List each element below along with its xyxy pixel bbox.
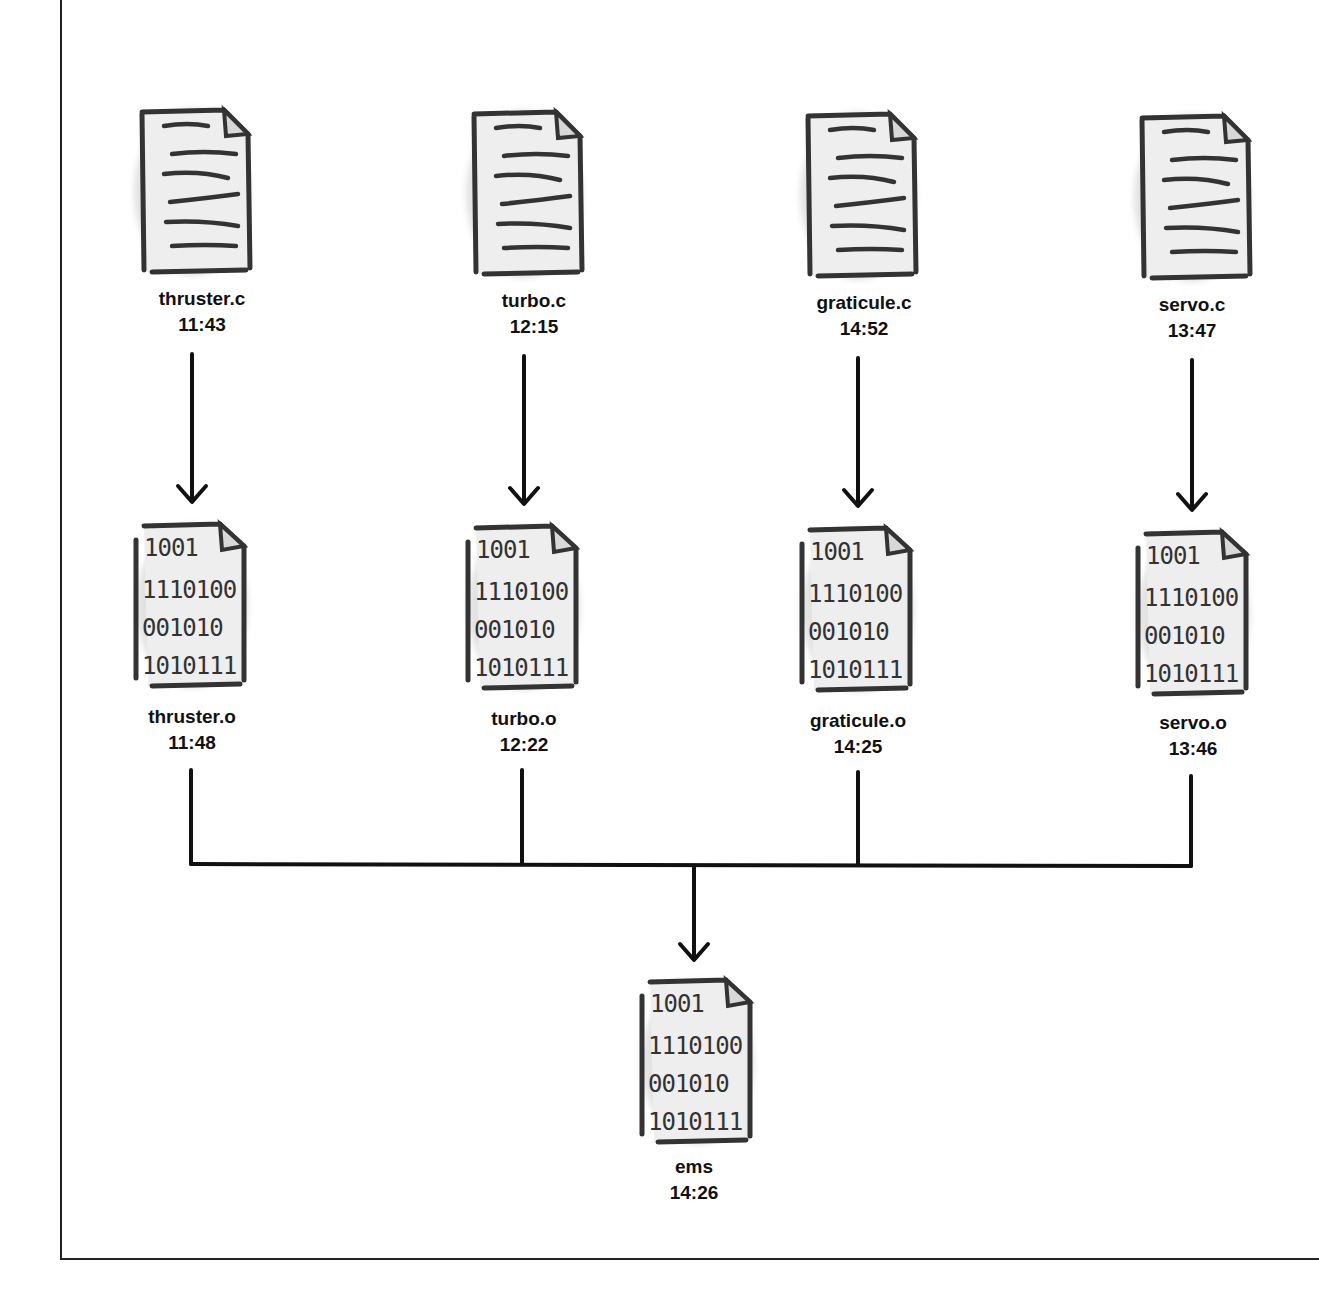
source-file-time: 12:15	[434, 314, 634, 340]
binary-line: 1001	[1146, 542, 1200, 570]
link-bus	[191, 770, 1191, 960]
binary-file-icon: 1001 1110100 001010 1010111	[130, 516, 254, 692]
source-file-icon	[460, 102, 590, 282]
source-file-name: turbo.c	[434, 288, 634, 314]
binary-line: 1110100	[1144, 584, 1238, 612]
target-file-time: 14:26	[594, 1180, 794, 1206]
arrow-servo-c-to-o	[1178, 360, 1206, 510]
binary-line: 1010111	[808, 656, 902, 684]
binary-line: 001010	[474, 616, 555, 644]
binary-line: 1010111	[142, 652, 236, 680]
object-file-time: 12:22	[424, 732, 624, 758]
binary-line: 1010111	[648, 1108, 742, 1136]
object-file-name: turbo.o	[424, 706, 624, 732]
target-file-name: ems	[594, 1154, 794, 1180]
source-file-icon	[1128, 106, 1258, 286]
binary-line: 1110100	[142, 576, 236, 604]
arrow-turbo-c-to-o	[510, 356, 538, 504]
binary-line: 1010111	[1144, 660, 1238, 688]
binary-line: 1110100	[648, 1032, 742, 1060]
object-file-name: graticule.o	[758, 708, 958, 734]
binary-line: 1001	[650, 990, 704, 1018]
binary-line: 001010	[142, 614, 223, 642]
source-file-time: 11:43	[102, 312, 302, 338]
binary-line: 1001	[144, 534, 198, 562]
binary-line: 1010111	[474, 654, 568, 682]
binary-line: 1001	[476, 536, 530, 564]
object-file-time: 14:25	[758, 734, 958, 760]
source-file-time: 13:47	[1092, 318, 1292, 344]
object-file-time: 11:48	[92, 730, 292, 756]
binary-file-icon: 1001 1110100 001010 1010111	[462, 518, 586, 694]
binary-line: 001010	[648, 1070, 729, 1098]
binary-line: 1110100	[808, 580, 902, 608]
binary-line: 1001	[810, 538, 864, 566]
source-file-icon	[794, 104, 924, 284]
binary-line: 001010	[808, 618, 889, 646]
source-file-name: servo.c	[1092, 292, 1292, 318]
source-file-name: thruster.c	[102, 286, 302, 312]
object-file-time: 13:46	[1093, 736, 1293, 762]
arrow-thruster-c-to-o	[178, 354, 206, 502]
object-file-name: servo.o	[1093, 710, 1293, 736]
source-file-icon	[128, 100, 258, 280]
binary-file-icon: 1001 1110100 001010 1010111	[636, 972, 760, 1148]
binary-line: 001010	[1144, 622, 1225, 650]
source-file-name: graticule.c	[764, 290, 964, 316]
binary-file-icon: 1001 1110100 001010 1010111	[1132, 524, 1256, 700]
arrow-graticule-c-to-o	[844, 358, 872, 506]
source-file-time: 14:52	[764, 316, 964, 342]
binary-file-icon: 1001 1110100 001010 1010111	[796, 520, 920, 696]
object-file-name: thruster.o	[92, 704, 292, 730]
binary-line: 1110100	[474, 578, 568, 606]
